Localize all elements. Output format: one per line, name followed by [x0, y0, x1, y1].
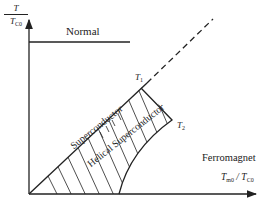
normal-region-label: Normal — [66, 26, 100, 37]
ferromagnet-region-label: Ferromagnet — [202, 153, 256, 164]
helical-hatching — [40, 60, 200, 200]
y-axis-denominator: TC0 — [4, 15, 28, 27]
x-axis-label: Tm0 / TC0 — [221, 173, 254, 183]
y-axis-label: T TC0 — [4, 4, 28, 27]
t1-point-label: T1 — [135, 73, 143, 83]
dashed-extension — [147, 19, 213, 83]
y-axis-numerator: T — [4, 4, 28, 15]
t2-point-label: T2 — [177, 121, 185, 131]
phase-diagram: T TC0 Normal Ferromagnet T1 T2 Tm0 / TC0… — [0, 0, 272, 205]
